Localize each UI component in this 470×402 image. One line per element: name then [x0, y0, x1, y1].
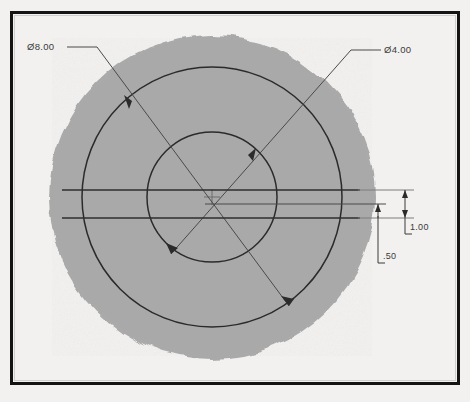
- technical-drawing-canvas: [0, 0, 470, 402]
- diameter-4-label: Ø4.00: [384, 44, 411, 55]
- diameter-8-label: Ø8.00: [27, 41, 54, 52]
- drawing-sheet: Ø8.00 Ø4.00 1.00 .50: [0, 0, 470, 402]
- overall-height-dimension-label: 1.00: [410, 222, 429, 232]
- offset-dimension-label: .50: [383, 251, 396, 261]
